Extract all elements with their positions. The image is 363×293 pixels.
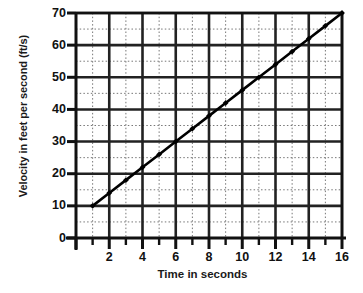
- y-tick-label: 70: [36, 7, 66, 20]
- y-tick-label: 40: [36, 103, 66, 116]
- y-tick-label: 20: [36, 167, 66, 180]
- x-tick-label: 8: [194, 251, 224, 264]
- x-tick-label: 12: [261, 251, 291, 264]
- x-tick-label: 16: [327, 251, 357, 264]
- y-tick-label: 60: [36, 39, 66, 52]
- x-tick-label: 6: [161, 251, 191, 264]
- x-tick-label: 14: [294, 251, 324, 264]
- y-tick-label: 10: [36, 199, 66, 212]
- y-tick-label: 50: [36, 71, 66, 84]
- x-axis-label: Time in seconds: [60, 268, 345, 280]
- y-axis-label: Velocity in feet per second (ft/s): [17, 1, 29, 231]
- chart-figure: Velocity in feet per second (ft/s) Time …: [0, 0, 363, 293]
- x-tick-label: 4: [128, 251, 158, 264]
- x-tick-label: 10: [227, 251, 257, 264]
- x-tick-label: 2: [94, 251, 124, 264]
- y-tick-label: 30: [36, 135, 66, 148]
- y-tick-label: 0: [36, 232, 66, 245]
